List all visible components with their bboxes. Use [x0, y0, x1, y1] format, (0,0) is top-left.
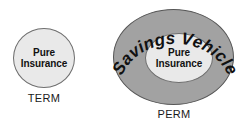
perm-inner-label-line2: Insurance [156, 58, 202, 69]
perm-caption: PERM [143, 108, 205, 120]
perm-diagram-group: Savings Vehicle Pure Insurance PERM [0, 0, 250, 132]
diagram-canvas: Pure Insurance TERM Savings Vehicle Pure… [0, 0, 250, 132]
perm-inner-label-line1: Pure [168, 47, 190, 58]
perm-inner-label: Pure Insurance [145, 33, 213, 83]
